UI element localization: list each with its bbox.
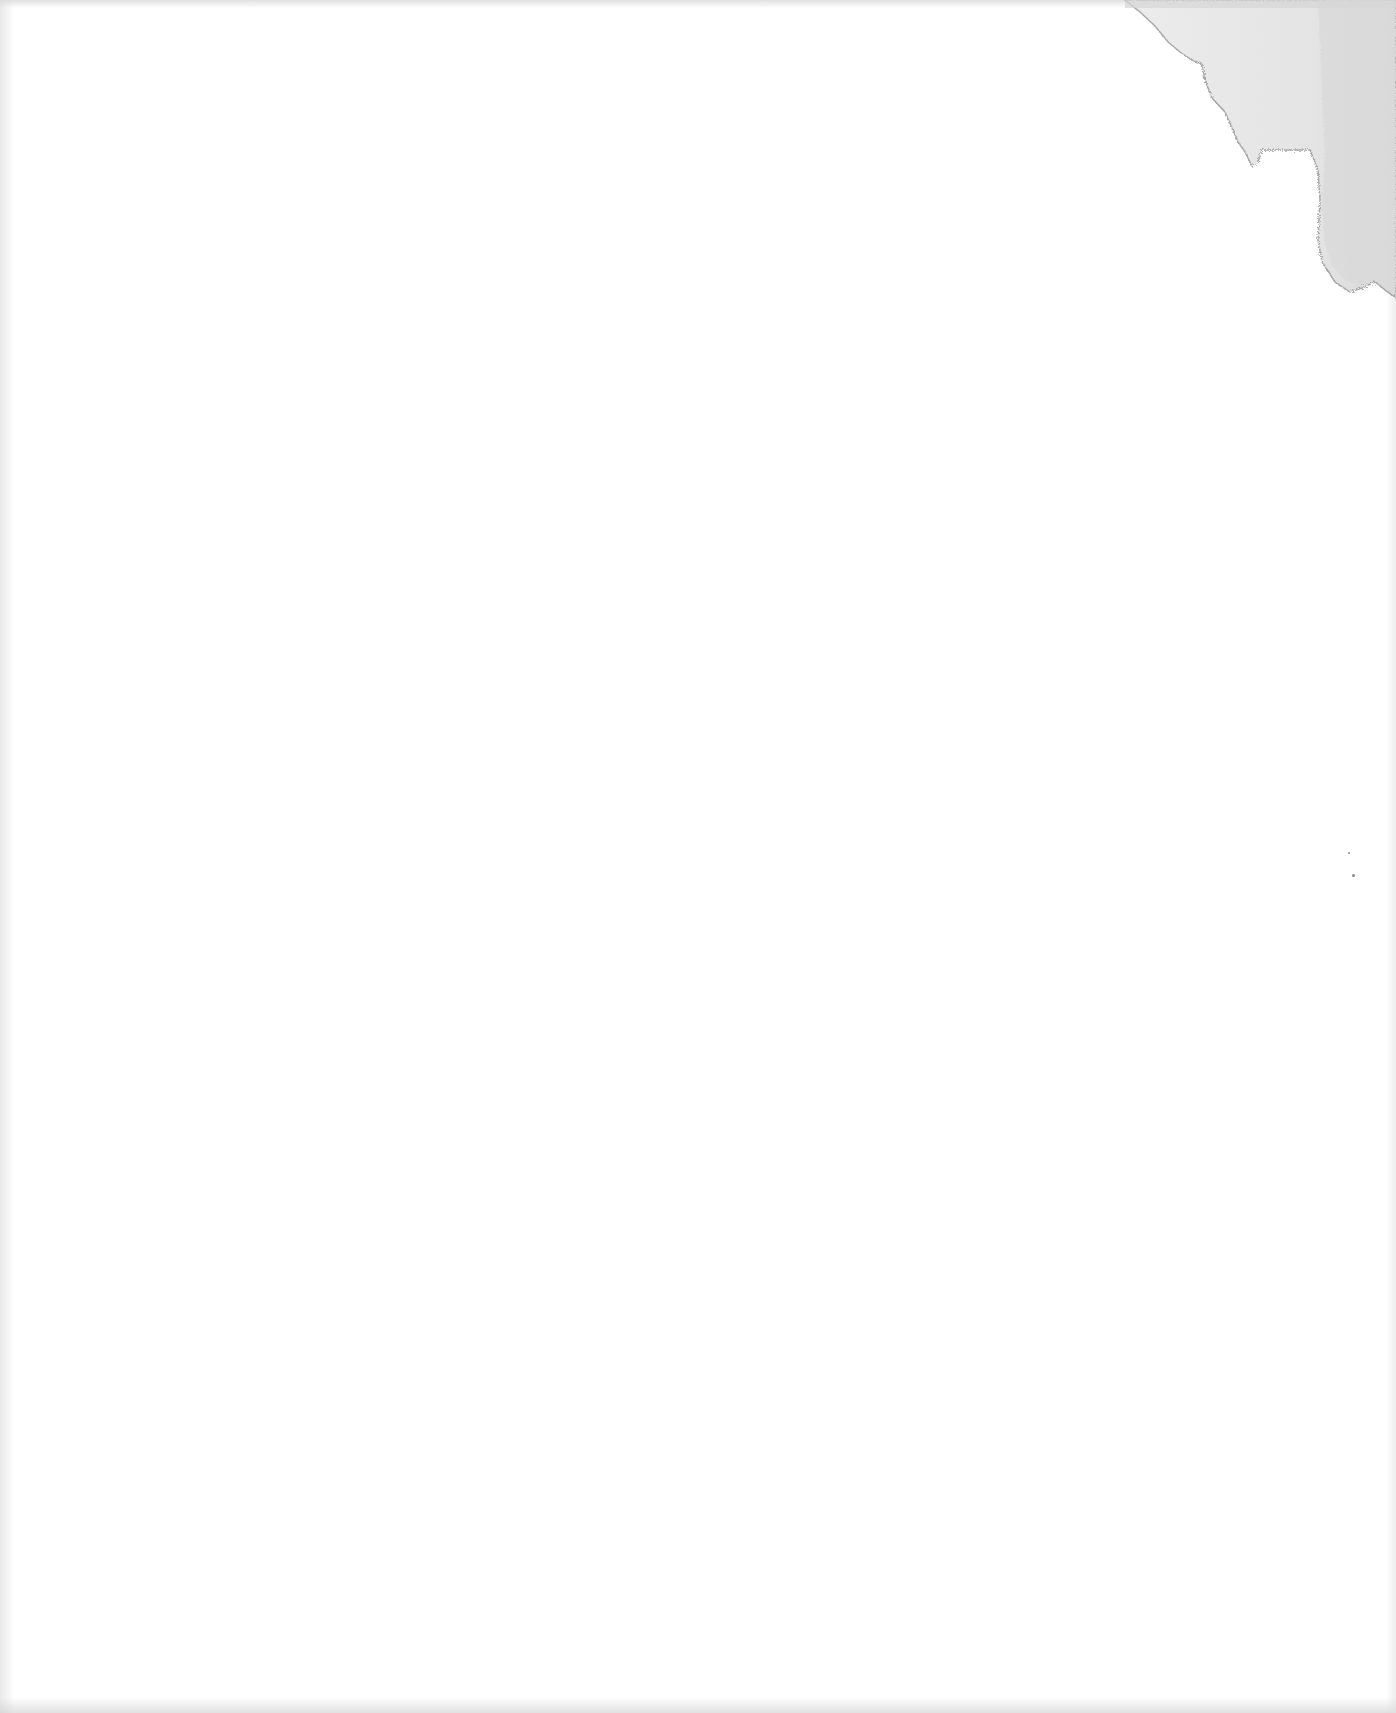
scan-edge-bottom <box>0 1697 1396 1713</box>
scan-edge-top <box>0 0 1396 8</box>
scan-edge-right <box>1386 0 1396 1713</box>
speck <box>1348 852 1350 854</box>
scan-edge-left <box>0 0 14 1713</box>
speck <box>1352 874 1355 877</box>
water-stain <box>0 0 1396 320</box>
blank-page <box>0 0 1396 1713</box>
